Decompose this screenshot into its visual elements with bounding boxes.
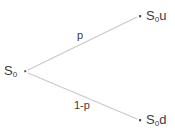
- binomial-tree-diagram: S0 S0u S0d p 1-p: [0, 0, 175, 137]
- node-label-initial-subscript: 0: [13, 70, 17, 79]
- down-node-dot: [139, 119, 141, 121]
- node-label-up-suffix: u: [159, 8, 166, 23]
- root-node-dot: [24, 70, 26, 72]
- node-label-initial-base: S: [4, 63, 13, 78]
- down-branch-line: [28, 73, 137, 119]
- up-node-dot: [139, 15, 141, 17]
- node-label-initial-state: S0: [4, 64, 17, 77]
- node-label-down-subscript: 0: [155, 119, 159, 128]
- node-label-up-state: S0u: [146, 9, 166, 22]
- node-label-up-base: S: [146, 8, 155, 23]
- edge-label-up-probability: p: [77, 30, 83, 41]
- node-label-down-suffix: d: [159, 112, 166, 127]
- up-branch-line: [28, 17, 137, 70]
- edge-label-down-probability: 1-p: [74, 100, 90, 111]
- node-label-down-state: S0d: [146, 113, 166, 126]
- node-label-down-base: S: [146, 112, 155, 127]
- node-label-up-subscript: 0: [155, 15, 159, 24]
